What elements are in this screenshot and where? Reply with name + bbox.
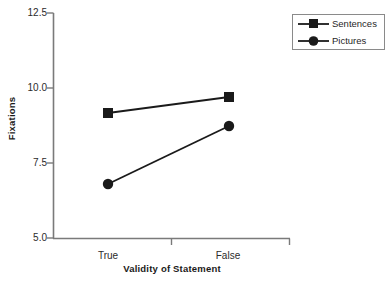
x-tick-label-true: True xyxy=(78,250,138,261)
x-tick-label-false: False xyxy=(198,250,258,261)
circle-marker-icon xyxy=(297,32,330,50)
square-marker-icon xyxy=(297,15,330,33)
data-point-pictures-true xyxy=(103,179,113,189)
legend-label-pictures: Pictures xyxy=(332,35,366,46)
y-tick-label-10-0: 10.0 xyxy=(13,82,47,93)
legend-item-sentences: Sentences xyxy=(293,15,386,33)
series-line-pictures xyxy=(108,126,229,184)
y-tick-label-7-5: 7.5 xyxy=(13,157,47,168)
x-axis-title: Validity of Statement xyxy=(72,263,272,274)
data-point-pictures-false xyxy=(224,121,234,131)
data-point-sentences-true xyxy=(103,108,113,118)
series-line-sentences xyxy=(108,97,229,113)
y-tick-label-12-5: 12.5 xyxy=(13,7,47,18)
legend-item-pictures: Pictures xyxy=(293,32,386,50)
y-tick-label-5-0: 5.0 xyxy=(13,232,47,243)
legend-box: Sentences Pictures xyxy=(292,14,385,50)
legend-label-sentences: Sentences xyxy=(332,18,377,29)
data-point-sentences-false xyxy=(224,92,234,102)
line-chart-figure: 12.5 10.0 7.5 5.0 True False Fixations V… xyxy=(0,0,391,285)
y-axis-title: Fixations xyxy=(6,84,17,154)
